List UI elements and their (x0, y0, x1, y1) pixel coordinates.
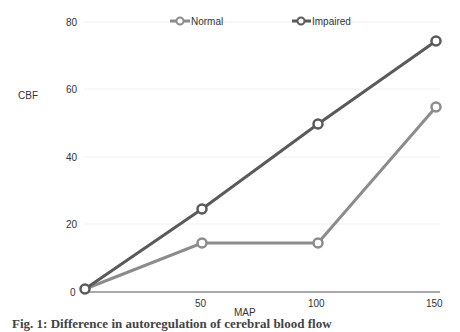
y-tick-0: 0 (70, 287, 76, 298)
data-point[interactable] (432, 103, 441, 112)
x-tick-100: 100 (308, 298, 325, 309)
y-tick-20: 20 (66, 219, 78, 230)
y-axis-title: CBF (18, 90, 38, 101)
series-impaired-line (85, 41, 436, 289)
y-tick-60: 60 (66, 84, 78, 95)
legend-item-normal[interactable]: Normal (170, 16, 223, 27)
legend-label-normal: Normal (191, 16, 223, 27)
data-point[interactable] (198, 205, 207, 214)
x-tick-150: 150 (426, 298, 443, 309)
data-point[interactable] (432, 37, 441, 46)
x-tick-50: 50 (195, 298, 207, 309)
impaired-marker-icon (298, 18, 305, 25)
series-normal-line (85, 107, 436, 289)
data-point[interactable] (314, 239, 323, 248)
data-point[interactable] (81, 285, 90, 294)
figure-caption: Fig. 1: Difference in autoregulation of … (12, 316, 332, 332)
y-tick-80: 80 (66, 17, 78, 28)
gridlines (84, 22, 440, 224)
data-point[interactable] (198, 239, 207, 248)
legend-label-impaired: Impaired (312, 16, 351, 27)
normal-marker-icon (177, 18, 184, 25)
data-point[interactable] (314, 120, 323, 129)
y-tick-40: 40 (66, 152, 78, 163)
legend-item-impaired[interactable]: Impaired (292, 16, 351, 27)
